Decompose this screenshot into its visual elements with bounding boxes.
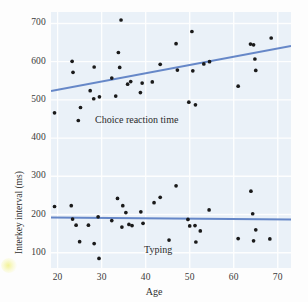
x-tick-label: 20 xyxy=(49,272,67,282)
y-tick-label: 700 xyxy=(31,17,46,27)
y-axis-title: Interkey interval (ms) xyxy=(14,171,24,254)
y-tick-label: 500 xyxy=(31,94,46,104)
x-tick-label: 50 xyxy=(181,272,199,282)
x-axis-title: Age xyxy=(0,286,308,297)
series-label-choice-reaction-time: Choice reaction time xyxy=(95,114,178,125)
y-tick-label: 200 xyxy=(31,209,46,219)
series-label-typing: Typing xyxy=(144,244,172,255)
y-tick-label: 300 xyxy=(31,170,46,180)
y-tick-label: 400 xyxy=(31,132,46,142)
x-tick-label: 40 xyxy=(137,272,155,282)
scatter-plot-figure: 100200300400500600700 203040506070 Inter… xyxy=(0,0,308,302)
y-tick-label: 100 xyxy=(31,247,46,257)
x-tick-label: 30 xyxy=(93,272,111,282)
plot-canvas xyxy=(0,0,308,302)
y-tick-label: 600 xyxy=(31,56,46,66)
x-tick-label: 70 xyxy=(269,272,287,282)
x-tick-label: 60 xyxy=(225,272,243,282)
